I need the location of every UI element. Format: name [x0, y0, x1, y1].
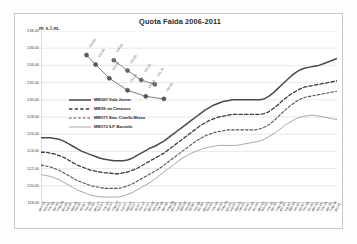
y-tick-label: 126,00: [15, 132, 39, 136]
legend-item[interactable]: MM/171 Stac. Cistello Mezzo: [69, 113, 185, 122]
legend-item[interactable]: MM/307 Viale Jenner: [69, 95, 185, 104]
y-tick-label: 118,00: [15, 201, 39, 205]
y-tick-label: 128,00: [15, 115, 39, 119]
legend-label: MM/307 Viale Jenner: [94, 97, 131, 102]
y-tick-label: 130,00: [15, 98, 39, 102]
legend-label: MM/29 via Cimarosa: [94, 106, 130, 111]
overlay-markers: [84, 53, 166, 101]
y-tick-label: 136,00: [15, 46, 39, 50]
y-tick-label: 138,00: [15, 29, 39, 33]
x-axis: gen-06feb-06mar-06apr-06mag-06giu-06lug-…: [41, 203, 337, 243]
y-tick-label: 120,00: [15, 184, 39, 188]
y-tick-label: 134,00: [15, 63, 39, 67]
y-tick-label: 132,00: [15, 81, 39, 85]
chart-screenshot: Quota Falda 2006-2011 m s.l.m. 138,00136…: [0, 0, 357, 244]
y-tick-label: 124,00: [15, 149, 39, 153]
legend-item[interactable]: MM/29 via Cimarosa: [69, 104, 185, 113]
legend-label: MM/172 S.P. Bacciolo: [94, 124, 132, 129]
y-axis: 138,00136,00134,00132,00130,00128,00126,…: [14, 31, 39, 203]
chart-title: Quota Falda 2006-2011: [60, 17, 300, 26]
legend-label: MM/171 Stac. Cistello Mezzo: [94, 115, 145, 120]
legend-item[interactable]: MM/172 S.P. Bacciolo: [69, 122, 185, 131]
chart-legend: MM/307 Viale JennerMM/29 via CimarosaMM/…: [69, 95, 185, 131]
y-tick-label: 122,00: [15, 167, 39, 171]
